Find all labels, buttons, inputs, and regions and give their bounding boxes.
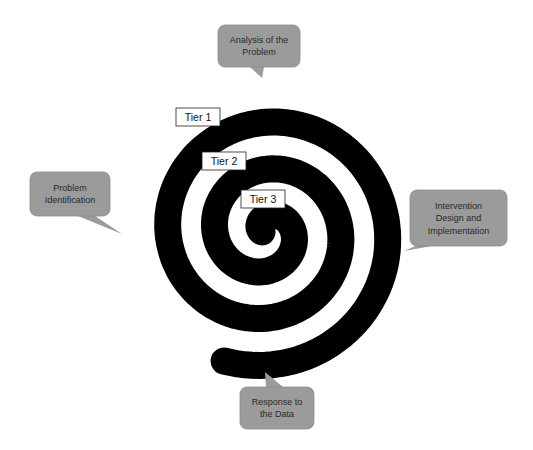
callout-text-line: Analysis of the (230, 35, 289, 45)
callout-box (30, 172, 110, 216)
callout-identification: ProblemIdentification (30, 172, 122, 234)
spiral-process-diagram: Tier 1Tier 2Tier 3 Analysis of theProble… (0, 0, 533, 450)
callout-text-line: Implementation (428, 226, 490, 236)
callout-text-line: Intervention (435, 201, 482, 211)
callout-text-line: Design and (436, 213, 482, 223)
tier-label-text: Tier 1 (185, 111, 212, 123)
callout-text-line: Identification (45, 195, 96, 205)
callout-text-line: the Data (260, 409, 294, 419)
tier-label-1: Tier 1 (176, 108, 220, 126)
callout-text-line: Problem (242, 47, 276, 57)
callout-text-line: Response to (252, 397, 303, 407)
tier-label-text: Tier 3 (250, 193, 277, 205)
spiral-band (168, 122, 388, 366)
callout-text-line: Problem (53, 183, 87, 193)
callout-pointer (78, 216, 122, 234)
callout-pointer (250, 67, 264, 78)
callout-box (240, 387, 314, 429)
tier-label-3: Tier 3 (241, 190, 285, 208)
tier-label-2: Tier 2 (202, 152, 246, 170)
callout-analysis: Analysis of theProblem (218, 25, 300, 78)
callout-intervention: InterventionDesign andImplementation (404, 190, 507, 251)
tier-label-text: Tier 2 (211, 155, 238, 167)
callout-box (218, 25, 300, 67)
callout-response: Response tothe Data (240, 372, 314, 429)
